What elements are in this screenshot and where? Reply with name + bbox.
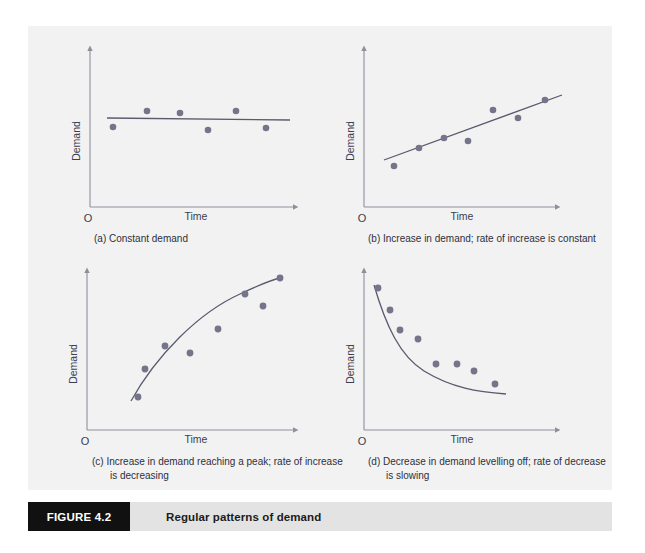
panel-a-trend-line [107, 118, 290, 120]
panel-c-data-points [135, 275, 284, 401]
figure-caption-bar: FIGURE 4.2 Regular patterns of demand [28, 502, 612, 531]
panel-b-data-points [391, 97, 549, 170]
data-point [215, 326, 222, 333]
chart-panel-a: Demand Time O (a) Constant demand [70, 50, 294, 244]
chart-panel-c: Demand Time O (c) Increase in demand rea… [67, 272, 343, 481]
panel-d-origin-label: O [358, 435, 367, 447]
data-point [515, 115, 522, 122]
data-point [135, 394, 142, 401]
data-point [142, 366, 149, 373]
data-point [490, 107, 497, 114]
chart-panel-b: Demand Time O (b) Increase in demand; ra… [344, 50, 596, 244]
panel-b-caption-line1: (b) Increase in demand; rate of increase… [368, 233, 596, 244]
panel-c-x-axis-label: Time [185, 433, 208, 445]
figure-plot-area: Demand Time O (a) Constant demand [28, 26, 612, 490]
panel-c-caption-line1: (c) Increase in demand reaching a peak; … [92, 456, 343, 467]
data-point [263, 125, 270, 132]
panel-d-caption-line2: is slowing [386, 470, 429, 481]
data-point [144, 108, 151, 115]
panel-a-y-axis-label: Demand [70, 121, 82, 161]
data-point [110, 124, 117, 131]
panel-b-x-axis-label: Time [451, 210, 474, 222]
data-point [277, 275, 284, 282]
data-point [433, 361, 440, 368]
data-point [542, 97, 549, 104]
data-point [260, 303, 267, 310]
figure-number-tag: FIGURE 4.2 [28, 502, 130, 531]
data-point [242, 291, 249, 298]
chart-panel-d: Demand Time O (d) Decrease in demand lev… [344, 272, 606, 481]
charts-svg: Demand Time O (a) Constant demand [28, 26, 612, 490]
figure-title: Regular patterns of demand [130, 502, 612, 531]
data-point [465, 138, 472, 145]
panel-c-trend-line [131, 277, 283, 401]
panel-c-y-axis-label: Demand [67, 344, 79, 384]
panel-d-x-axis-label: Time [451, 433, 474, 445]
data-point [397, 327, 404, 334]
panel-d-caption-line1: (d) Decrease in demand levelling off; ra… [368, 456, 606, 467]
data-point [471, 368, 478, 375]
data-point [387, 307, 394, 314]
data-point [187, 350, 194, 357]
panel-b-y-axis-label: Demand [344, 121, 356, 161]
panel-b-trend-line [384, 95, 562, 160]
figure-root: Demand Time O (a) Constant demand [0, 0, 645, 553]
panel-a-x-axis-label: Time [185, 210, 208, 222]
data-point [233, 108, 240, 115]
data-point [441, 135, 448, 142]
panel-a-origin-label: O [84, 212, 93, 224]
panel-a-data-points [110, 108, 270, 134]
data-point [391, 163, 398, 170]
panel-a-caption-line1: (a) Constant demand [94, 233, 188, 244]
data-point [454, 361, 461, 368]
panel-d-trend-line [374, 285, 506, 394]
data-point [415, 336, 422, 343]
data-point [177, 110, 184, 117]
panel-d-y-axis-label: Demand [344, 344, 356, 384]
panel-c-caption-line2: is decreasing [110, 470, 169, 481]
data-point [416, 145, 423, 152]
data-point [492, 381, 499, 388]
panel-b-origin-label: O [358, 212, 367, 224]
data-point [162, 343, 169, 350]
data-point [375, 285, 382, 292]
data-point [205, 127, 212, 134]
panel-c-origin-label: O [81, 435, 90, 447]
